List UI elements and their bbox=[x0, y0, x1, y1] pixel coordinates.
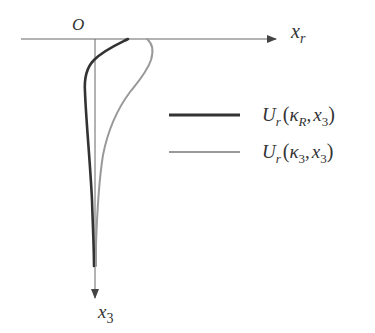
curve-ur-kappa-r bbox=[85, 39, 128, 266]
legend: Ur(κR,x3) Ur(κ3,x3) bbox=[169, 103, 335, 166]
origin-label: O bbox=[72, 15, 84, 34]
x3-axis-label: x3 bbox=[97, 301, 113, 326]
x-r-axis-label: xr bbox=[290, 20, 306, 46]
diagram-canvas: O xr x3 Ur(κR,x3) Ur(κ3,x3) bbox=[0, 0, 375, 333]
curve-ur-kappa-3 bbox=[96, 39, 152, 266]
legend-label-ur-kappa-r: Ur(κR,x3) bbox=[262, 103, 335, 129]
legend-label-ur-kappa-3: Ur(κ3,x3) bbox=[262, 140, 333, 166]
